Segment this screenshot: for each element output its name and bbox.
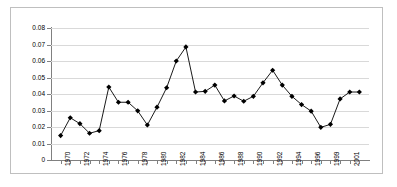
x-axis-tick [109, 160, 110, 164]
x-axis-tick [99, 160, 100, 164]
chart-frame: 0.080.070.060.050.040.030.020.010 197019… [10, 7, 383, 174]
x-axis-tick [138, 160, 139, 164]
y-axis-tick [47, 78, 51, 79]
x-axis-tick [128, 160, 129, 164]
data-point-marker [106, 84, 111, 89]
data-point-marker [116, 100, 121, 105]
series-markers [58, 44, 362, 138]
series-line [61, 47, 360, 136]
data-point-marker [241, 99, 246, 104]
y-axis-tick [47, 28, 51, 29]
series-svg [11, 8, 384, 175]
y-axis-tick [47, 111, 51, 112]
x-axis-tick [350, 160, 351, 164]
x-axis-tick [205, 160, 206, 164]
y-axis-tick [47, 127, 51, 128]
y-axis-tick [47, 94, 51, 95]
x-axis-tick [311, 160, 312, 164]
x-axis-tick [176, 160, 177, 164]
data-point-marker [174, 58, 179, 63]
y-axis-tick [47, 61, 51, 62]
data-point-marker [183, 44, 188, 49]
data-point-marker [309, 109, 314, 114]
data-point-marker [231, 93, 236, 98]
x-axis-tick [263, 160, 264, 164]
x-axis-tick [90, 160, 91, 164]
x-axis-tick [253, 160, 254, 164]
x-axis-tick [147, 160, 148, 164]
x-axis-tick [157, 160, 158, 164]
data-point-marker [58, 133, 63, 138]
x-axis-tick [244, 160, 245, 164]
x-axis-tick [273, 160, 274, 164]
data-point-marker [328, 122, 333, 127]
data-point-marker [318, 125, 323, 130]
x-axis-tick [321, 160, 322, 164]
x-axis-tick [186, 160, 187, 164]
data-point-marker [203, 89, 208, 94]
x-axis-tick [330, 160, 331, 164]
x-axis-tick [292, 160, 293, 164]
y-axis-tick [47, 144, 51, 145]
data-point-marker [193, 89, 198, 94]
x-axis-tick [234, 160, 235, 164]
data-point-marker [154, 105, 159, 110]
x-axis-tick [118, 160, 119, 164]
x-axis-tick [215, 160, 216, 164]
data-point-marker [68, 115, 73, 120]
x-axis-tick [196, 160, 197, 164]
x-axis-tick [167, 160, 168, 164]
x-axis-tick [340, 160, 341, 164]
data-point-marker [97, 128, 102, 133]
data-point-marker [145, 122, 150, 127]
x-axis-tick [224, 160, 225, 164]
y-axis-tick [47, 45, 51, 46]
y-axis-tick [47, 160, 51, 161]
data-point-marker [164, 85, 169, 90]
x-axis-tick [61, 160, 62, 164]
data-point-marker [222, 98, 227, 103]
data-point-marker [212, 82, 217, 87]
x-axis-tick [70, 160, 71, 164]
data-point-marker [357, 89, 362, 94]
x-axis-tick [359, 160, 360, 164]
x-axis-tick [282, 160, 283, 164]
x-axis-tick [302, 160, 303, 164]
x-axis-tick [80, 160, 81, 164]
